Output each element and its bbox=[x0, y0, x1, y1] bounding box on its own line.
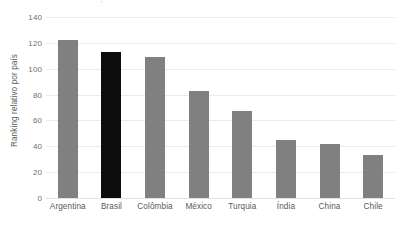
y-axis-tick-label: 40 bbox=[2, 142, 42, 151]
y-axis-ticks: 020406080100120140 bbox=[0, 17, 42, 198]
bar-chile bbox=[363, 155, 383, 198]
bar-argentina bbox=[58, 40, 78, 198]
y-axis-tick-label: 80 bbox=[2, 90, 42, 99]
bar-india bbox=[276, 140, 296, 198]
bar-brasil bbox=[101, 52, 121, 198]
bar-china bbox=[320, 144, 340, 198]
y-axis-tick-label: 120 bbox=[2, 38, 42, 47]
bar-mexico bbox=[189, 91, 209, 198]
bars-layer bbox=[46, 17, 395, 198]
y-axis-tick-label: 60 bbox=[2, 116, 42, 125]
y-axis-tick-label: 100 bbox=[2, 64, 42, 73]
bar-chart: • Ranking relativo por país 020406080100… bbox=[0, 0, 404, 232]
gridline bbox=[46, 198, 395, 199]
bar-colombia bbox=[145, 57, 165, 198]
x-axis-label: Chile bbox=[342, 202, 404, 211]
y-axis-tick-label: 140 bbox=[2, 13, 42, 22]
x-axis-labels: ArgentinaBrasilColômbiaMéxicoTurquiaÍndi… bbox=[46, 202, 395, 218]
bar-turquia bbox=[232, 111, 252, 198]
chart-title-clipped: • bbox=[100, 0, 330, 4]
y-axis-tick-label: 20 bbox=[2, 168, 42, 177]
